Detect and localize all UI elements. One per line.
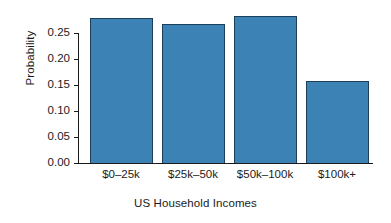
y-axis-tick-label: 0.05 [48,131,74,143]
y-axis-tick-label: 0.00 [48,157,74,169]
bar [90,18,153,164]
x-axis-tick-labels: $0–25k$25k–50k$50k–100k$100k+ [85,169,373,187]
plot-area [85,0,373,164]
x-axis-title: US Household Incomes [0,197,391,209]
bar [306,81,369,164]
bar [162,24,225,164]
y-axis-ticks: 0.000.050.100.150.200.25 [0,0,79,223]
bar-chart: Probability 0.000.050.100.150.200.25 $0–… [0,0,391,223]
y-axis-tick-label: 0.15 [48,79,74,91]
y-axis-tick-label: 0.20 [48,53,74,65]
x-axis-tick-label: $0–25k [85,169,157,181]
x-axis-line [79,163,373,164]
x-axis-tick-label: $100k+ [301,169,373,181]
y-axis-tick-label: 0.10 [48,105,74,117]
bar [234,16,297,164]
x-axis-tick-label: $25k–50k [157,169,229,181]
y-axis-tick-label: 0.25 [48,27,74,39]
y-axis-line [78,33,79,164]
x-axis-tick-label: $50k–100k [229,169,301,181]
